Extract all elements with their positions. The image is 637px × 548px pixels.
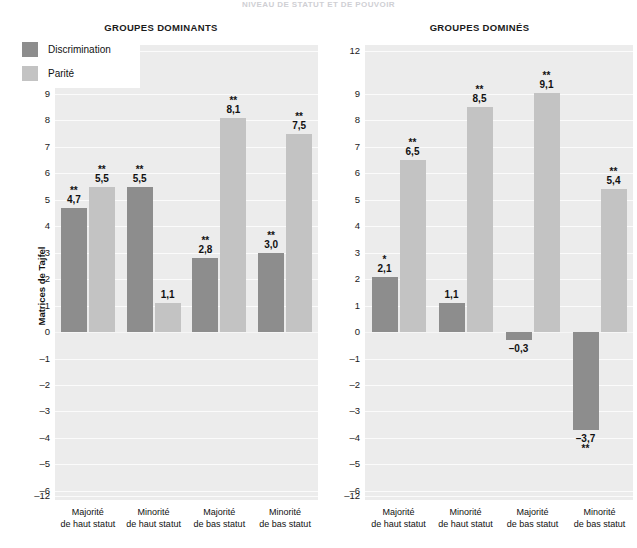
y-axis-tick: –3 [20, 406, 50, 416]
bar-parite [286, 134, 312, 332]
gridline [365, 120, 633, 121]
bar-parite [467, 107, 493, 332]
legend-label-parite: Parité [48, 68, 74, 79]
y-axis-tick: 12 [330, 46, 360, 56]
legend-swatch-parite [22, 66, 38, 81]
figure-page: NIVEAU DE STATUT ET DE POUVOIR GROUPES D… [0, 0, 637, 548]
y-axis-tick: –5 [330, 459, 360, 469]
y-axis-tick: 4 [330, 221, 360, 231]
y-axis-tick: 6 [330, 168, 360, 178]
y-axis-tick: 3 [330, 248, 360, 258]
bar-value-label: 8,1 [208, 105, 258, 115]
y-axis-tick: 2 [330, 274, 360, 284]
significance-marker: ** [561, 445, 611, 452]
bar-parite [534, 93, 560, 332]
y-axis-tick: –5 [20, 459, 50, 469]
bar-value-label: 7,5 [274, 121, 324, 131]
y-axis-tick: 7 [330, 142, 360, 152]
gridline [55, 464, 318, 465]
significance-marker: ** [522, 72, 572, 79]
bar-parite [601, 189, 627, 332]
y-axis-label: Matrices de Tajfel [36, 246, 47, 325]
y-axis-tick: –4 [20, 433, 50, 443]
gridline [55, 147, 318, 148]
y-axis-tick: 5 [20, 195, 50, 205]
running-head: NIVEAU DE STATUT ET DE POUVOIR [0, 0, 637, 9]
x-axis-category-label: Minoritéde bas statut [244, 506, 326, 530]
x-axis-category-line: Minorité [558, 506, 637, 518]
bar-discrimination [372, 277, 398, 333]
y-axis-tick: 7 [20, 142, 50, 152]
y-axis-tick: 8 [20, 115, 50, 125]
y-axis-tick: –2 [20, 380, 50, 390]
gridline [365, 496, 633, 497]
x-axis-category-line: de bas statut [558, 518, 637, 530]
panel-title-right: GROUPES DOMINÉS [322, 22, 637, 33]
y-axis-tick: 9 [20, 89, 50, 99]
significance-marker: ** [388, 139, 438, 146]
bar-discrimination [258, 253, 284, 332]
bar-parite [155, 303, 181, 332]
y-axis-tick: –4 [330, 433, 360, 443]
bar-value-label: 9,1 [522, 80, 572, 90]
significance-marker: ** [274, 113, 324, 120]
y-axis-tick: 0 [20, 327, 50, 337]
y-axis-tick: –1 [330, 354, 360, 364]
gridline [365, 491, 633, 492]
significance-marker: ** [589, 168, 637, 175]
gridline [365, 464, 633, 465]
gridline [55, 94, 318, 95]
bar-value-label: –0,3 [494, 344, 544, 354]
significance-marker: ** [455, 86, 505, 93]
y-axis-tick: 6 [20, 168, 50, 178]
chart-legend: Discrimination Parité [12, 32, 140, 88]
bar-value-label: 8,5 [455, 94, 505, 104]
bar-discrimination [573, 332, 599, 430]
bar-discrimination [61, 208, 87, 332]
y-axis-tick: –1 [20, 354, 50, 364]
y-axis-tick: 4 [20, 221, 50, 231]
bar-parite [400, 160, 426, 332]
gridline [55, 438, 318, 439]
y-axis-tick: 9 [330, 89, 360, 99]
x-axis-category-line: de bas statut [244, 518, 326, 530]
legend-item-discrimination: Discrimination [22, 40, 111, 58]
gridline [55, 385, 318, 386]
y-axis-tick: 0 [330, 327, 360, 337]
significance-marker: ** [208, 97, 258, 104]
plot-area-right: 2,1*6,5**1,18,5**–0,39,1**–3,7**5,4** [365, 45, 633, 500]
y-axis-tick: 2 [20, 274, 50, 284]
gridline [365, 51, 633, 52]
x-axis-category-line: Minorité [244, 506, 326, 518]
bar-discrimination [506, 332, 532, 340]
gridline [55, 332, 318, 333]
legend-label-discrimination: Discrimination [48, 44, 111, 55]
chart-panel-dominants: GROUPES DOMINANTS Matrices de Tajfel 4,7… [0, 22, 322, 548]
bar-discrimination [192, 258, 218, 332]
y-axis-tick: 3 [20, 248, 50, 258]
significance-marker: ** [115, 166, 165, 173]
legend-swatch-discrimination [22, 42, 38, 57]
gridline [55, 411, 318, 412]
y-axis-tick: –12 [20, 491, 50, 501]
bar-parite [89, 187, 115, 332]
bar-parite [220, 118, 246, 332]
x-axis-category-label: Minoritéde bas statut [558, 506, 637, 530]
gridline [55, 496, 318, 497]
bar-value-label: 1,1 [143, 290, 193, 300]
y-axis-tick: 1 [20, 301, 50, 311]
chart-panel-domines: GROUPES DOMINÉS 2,1*6,5**1,18,5**–0,39,1… [322, 22, 637, 548]
legend-item-parite: Parité [22, 64, 74, 82]
y-axis-tick: 8 [330, 115, 360, 125]
bar-value-label: 5,4 [589, 176, 637, 186]
y-axis-tick: –2 [330, 380, 360, 390]
gridline [55, 359, 318, 360]
bar-discrimination [127, 187, 153, 332]
y-axis-tick: 5 [330, 195, 360, 205]
y-axis-tick: –3 [330, 406, 360, 416]
gridline [55, 491, 318, 492]
y-axis-tick: 1 [330, 301, 360, 311]
bar-value-label: 5,5 [115, 174, 165, 184]
bar-value-label: 6,5 [388, 147, 438, 157]
y-axis-tick: –12 [330, 491, 360, 501]
